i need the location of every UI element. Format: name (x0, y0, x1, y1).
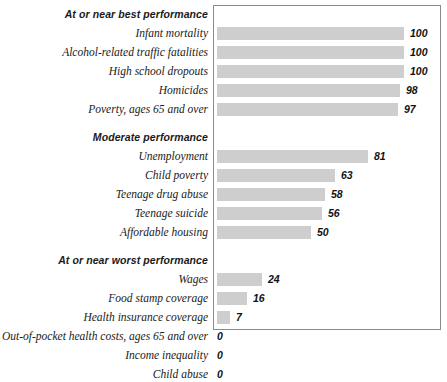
bar-category-label: High school dropouts (109, 62, 208, 81)
bar-category-label: Homicides (159, 81, 208, 100)
chart-row: High school dropouts100 (0, 62, 447, 81)
bar (217, 311, 230, 324)
chart-row: Homicides98 (0, 81, 447, 100)
bar-value-label: 98 (406, 81, 418, 100)
bar-track: 0 (217, 365, 447, 382)
bar-track: 0 (217, 346, 447, 365)
bar-track: 24 (217, 270, 447, 289)
bar-category-label: Child poverty (145, 166, 208, 185)
chart-row: Affordable housing50 (0, 223, 447, 242)
bar-value-label: 0 (217, 327, 223, 346)
bar (217, 169, 335, 182)
bar-track: 100 (217, 43, 447, 62)
bar-track: 63 (217, 166, 447, 185)
bar-track: 98 (217, 81, 447, 100)
bar-category-label: Wages (178, 270, 208, 289)
chart-row: Child abuse0 (0, 365, 447, 382)
chart-row: Child poverty63 (0, 166, 447, 185)
chart-row: Teenage drug abuse58 (0, 185, 447, 204)
chart-row: Food stamp coverage16 (0, 289, 447, 308)
bar-track: 56 (217, 204, 447, 223)
bar-category-label: Food stamp coverage (108, 289, 208, 308)
bar-category-label: Unemployment (138, 147, 208, 166)
bar (217, 292, 247, 305)
bar-value-label: 63 (341, 166, 353, 185)
bar-category-label: Child abuse (153, 365, 208, 382)
bar-category-label: Poverty, ages 65 and over (88, 100, 208, 119)
group-spacer (0, 119, 447, 128)
chart-row: Unemployment81 (0, 147, 447, 166)
chart-row: Income inequality0 (0, 346, 447, 365)
bar-value-label: 81 (374, 147, 386, 166)
bar-track: 97 (217, 100, 447, 119)
bar (217, 273, 262, 286)
bar (217, 27, 404, 40)
bar-value-label: 100 (410, 62, 428, 81)
bar-value-label: 0 (217, 365, 223, 382)
bar-category-label: Alcohol-related traffic fatalities (62, 43, 208, 62)
bar-value-label: 56 (328, 204, 340, 223)
chart-rows: At or near best performanceInfant mortal… (0, 5, 447, 382)
chart-row: Teenage suicide56 (0, 204, 447, 223)
chart-row: Health insurance coverage7 (0, 308, 447, 327)
chart-row: Out-of-pocket health costs, ages 65 and … (0, 327, 447, 346)
bar (217, 103, 398, 116)
group-header-label: Moderate performance (93, 128, 208, 147)
bar-category-label: Income inequality (125, 346, 208, 365)
bar-value-label: 97 (404, 100, 416, 119)
chart-row: Infant mortality100 (0, 24, 447, 43)
bar-track: 81 (217, 147, 447, 166)
bar-category-label: Health insurance coverage (83, 308, 208, 327)
bar-category-label: Out-of-pocket health costs, ages 65 and … (2, 327, 208, 346)
bar-track: 58 (217, 185, 447, 204)
bar-value-label: 24 (268, 270, 280, 289)
group-header: At or near worst performance (0, 251, 447, 270)
bar-track: 100 (217, 24, 447, 43)
bar-category-label: Infant mortality (135, 24, 208, 43)
bar (217, 226, 311, 239)
group-header: Moderate performance (0, 128, 447, 147)
bar-value-label: 0 (217, 346, 223, 365)
bar-value-label: 58 (331, 185, 343, 204)
bar-value-label: 50 (317, 223, 329, 242)
group-header-label: At or near best performance (65, 5, 208, 24)
bar-category-label: Teenage suicide (135, 204, 208, 223)
bar-value-label: 100 (410, 24, 428, 43)
bar-value-label: 7 (236, 308, 242, 327)
bar-track: 16 (217, 289, 447, 308)
bar-track: 100 (217, 62, 447, 81)
bar (217, 46, 404, 59)
bar-track: 50 (217, 223, 447, 242)
group-header: At or near best performance (0, 5, 447, 24)
bar (217, 84, 400, 97)
chart-row: Alcohol-related traffic fatalities100 (0, 43, 447, 62)
bar (217, 150, 368, 163)
chart-row: Wages24 (0, 270, 447, 289)
bar-category-label: Teenage drug abuse (116, 185, 208, 204)
bar-value-label: 100 (410, 43, 428, 62)
bar-track: 0 (217, 327, 447, 346)
bar (217, 65, 404, 78)
bar-category-label: Affordable housing (120, 223, 208, 242)
bar-value-label: 16 (253, 289, 265, 308)
group-spacer (0, 242, 447, 251)
group-header-label: At or near worst performance (58, 251, 208, 270)
bar (217, 207, 322, 220)
chart-row: Poverty, ages 65 and over97 (0, 100, 447, 119)
bar-track: 7 (217, 308, 447, 327)
bar (217, 188, 325, 201)
